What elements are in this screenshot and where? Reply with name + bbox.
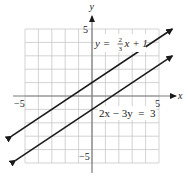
- x-min-tick-label: −5: [14, 98, 25, 109]
- eq1-numerator: 2: [119, 36, 123, 44]
- y-axis-label: y: [89, 1, 95, 12]
- y-min-tick-label: −5: [79, 151, 90, 162]
- coordinate-plane: x y −5 5 5 −5 y = 2 3 x + 1 2x − 3y = 3: [0, 0, 188, 177]
- eq1-denominator: 3: [119, 45, 123, 53]
- equation-2-label: 2x − 3y = 3: [99, 107, 156, 119]
- eq1-suffix: x + 1: [124, 37, 148, 49]
- eq1-prefix: y =: [94, 37, 110, 49]
- y-max-tick-label: 5: [83, 24, 88, 35]
- x-axis-label: x: [177, 90, 183, 101]
